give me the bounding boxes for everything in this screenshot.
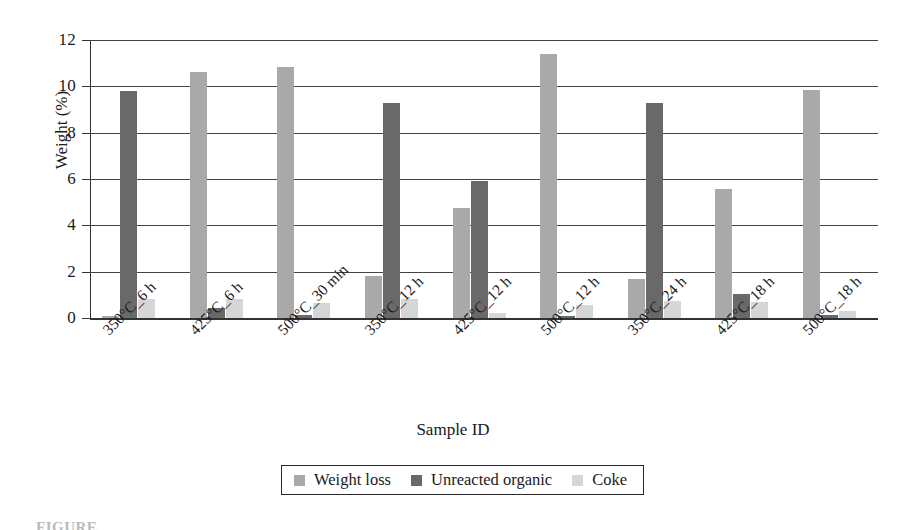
bar	[715, 189, 732, 318]
y-axis-tick	[82, 133, 90, 134]
y-axis-tick-label: 6	[36, 170, 76, 187]
legend-label: Weight loss	[314, 472, 391, 489]
legend-item: Coke	[572, 472, 627, 489]
bar	[277, 67, 294, 318]
y-axis-tick-label: 2	[36, 263, 76, 280]
bar	[453, 208, 470, 318]
legend-swatch	[572, 475, 583, 486]
y-axis-tick-label: 4	[36, 216, 76, 233]
y-axis-tick	[82, 225, 90, 226]
legend-label: Coke	[592, 472, 627, 489]
bar	[839, 311, 856, 318]
y-axis-tick	[82, 179, 90, 180]
legend-item: Weight loss	[294, 472, 391, 489]
legend-swatch	[411, 475, 422, 486]
legend-item: Unreacted organic	[411, 472, 552, 489]
y-axis-tick	[82, 86, 90, 87]
chart-legend: Weight lossUnreacted organicCoke	[281, 465, 644, 495]
x-axis-title: Sample ID	[0, 420, 906, 440]
figure-container: Weight (%) 024681012 350°C_6 h425°C_6 h5…	[0, 0, 906, 530]
bar-group	[102, 40, 155, 318]
bar	[120, 91, 137, 318]
y-axis-tick	[82, 40, 90, 41]
legend-swatch	[294, 475, 305, 486]
y-axis-tick	[82, 272, 90, 273]
bar	[803, 90, 820, 318]
y-axis-tick	[82, 318, 90, 319]
bar	[489, 313, 506, 318]
legend-label: Unreacted organic	[431, 472, 552, 489]
bar	[383, 103, 400, 318]
bar	[540, 54, 557, 318]
bar	[190, 72, 207, 318]
y-axis-tick-label: 12	[36, 31, 76, 48]
y-axis-tick-label: 0	[36, 309, 76, 326]
y-axis-tick-label: 8	[36, 124, 76, 141]
y-axis-tick-label: 10	[36, 77, 76, 94]
bar-group	[190, 40, 243, 318]
figure-caption: FIGURE	[36, 519, 97, 530]
bar	[646, 103, 663, 318]
